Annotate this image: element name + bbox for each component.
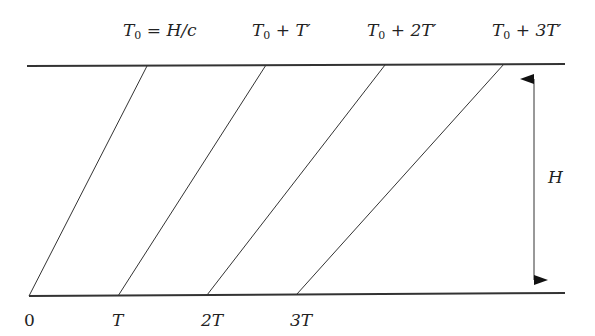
top-label-2: T0 + 2T′ xyxy=(367,20,436,42)
bottom-label-1: T xyxy=(112,310,123,330)
signal-line-2 xyxy=(207,65,385,295)
bottom-label-0: 0 xyxy=(24,310,35,330)
bottom-label-2: 2T xyxy=(201,310,223,330)
signal-line-0 xyxy=(29,66,147,296)
signal-line-1 xyxy=(118,65,266,296)
height-label: H xyxy=(548,167,563,187)
label-rest: + 3T′ xyxy=(510,20,561,40)
label-var: T xyxy=(367,20,378,40)
top-boundary-line xyxy=(27,64,565,66)
label-rest: + 2T′ xyxy=(385,20,436,40)
label-rest: + T′ xyxy=(270,20,310,40)
top-label-1: T0 + T′ xyxy=(252,20,311,42)
top-label-0: T0 = H/c xyxy=(123,20,196,42)
label-var: T xyxy=(492,20,503,40)
label-var: T xyxy=(123,20,134,40)
bottom-label-3: 3T xyxy=(290,310,312,330)
diagram-lines xyxy=(0,0,595,336)
top-label-3: T0 + 3T′ xyxy=(492,20,561,42)
signal-line-3 xyxy=(297,64,504,294)
label-rest: = H/c xyxy=(141,20,196,40)
diagram-canvas: T0 = H/c T0 + T′ T0 + 2T′ T0 + 3T′ 0 T 2… xyxy=(0,0,595,336)
label-var: T xyxy=(252,20,263,40)
